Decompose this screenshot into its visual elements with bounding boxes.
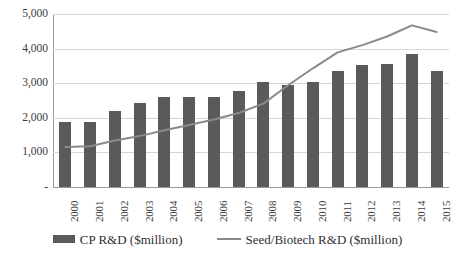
x-tick-label-2014: 2014 <box>416 201 427 222</box>
y-tick-label-3000: 3,000 <box>22 77 48 89</box>
x-tick-label-2001: 2001 <box>94 201 105 222</box>
x-tick-label-2004: 2004 <box>168 201 179 222</box>
y-tick-label-2000: 2,000 <box>22 112 48 124</box>
y-tick-label-4000: 4,000 <box>22 43 48 55</box>
legend-label-cp-rd: CP R&D ($million) <box>80 233 183 246</box>
x-tick-label-2005: 2005 <box>193 201 204 222</box>
x-axis-tick-labels: 2000200120022003200420052006200720082009… <box>53 188 449 228</box>
x-tick-label-2010: 2010 <box>317 201 328 222</box>
x-tick-label-2008: 2008 <box>267 201 278 222</box>
x-tick-label-2011: 2011 <box>342 201 353 222</box>
legend-label-seed-biotech-rd: Seed/Biotech R&D ($million) <box>246 233 403 246</box>
bar-swatch-icon <box>53 235 75 243</box>
x-tick-label-2000: 2000 <box>69 201 80 222</box>
y-tick-label-1000: 1,000 <box>22 146 48 158</box>
legend-item-seed-biotech-rd[interactable]: Seed/Biotech R&D ($million) <box>217 233 403 246</box>
line-path <box>65 25 436 146</box>
legend-item-cp-rd[interactable]: CP R&D ($million) <box>53 233 183 246</box>
plot-area <box>53 14 449 187</box>
x-tick-label-2015: 2015 <box>441 201 452 222</box>
x-tick-label-2007: 2007 <box>243 201 254 222</box>
y-tick-label-0: - <box>44 181 48 193</box>
chart-legend: CP R&D ($million) Seed/Biotech R&D ($mil… <box>0 228 455 250</box>
x-tick-label-2009: 2009 <box>292 201 303 222</box>
x-tick-label-2012: 2012 <box>366 201 377 222</box>
x-tick-label-2013: 2013 <box>391 201 402 222</box>
line-swatch-icon <box>217 238 241 240</box>
x-tick-label-2002: 2002 <box>119 201 130 222</box>
line-series-seed-biotech-rd <box>53 14 449 187</box>
x-tick-label-2003: 2003 <box>144 201 155 222</box>
y-axis-tick-labels: -1,0002,0003,0004,0005,000 <box>0 0 48 254</box>
x-tick-label-2006: 2006 <box>218 201 229 222</box>
chart-container: -1,0002,0003,0004,0005,000 2000200120022… <box>0 0 455 254</box>
y-tick-label-5000: 5,000 <box>22 8 48 20</box>
